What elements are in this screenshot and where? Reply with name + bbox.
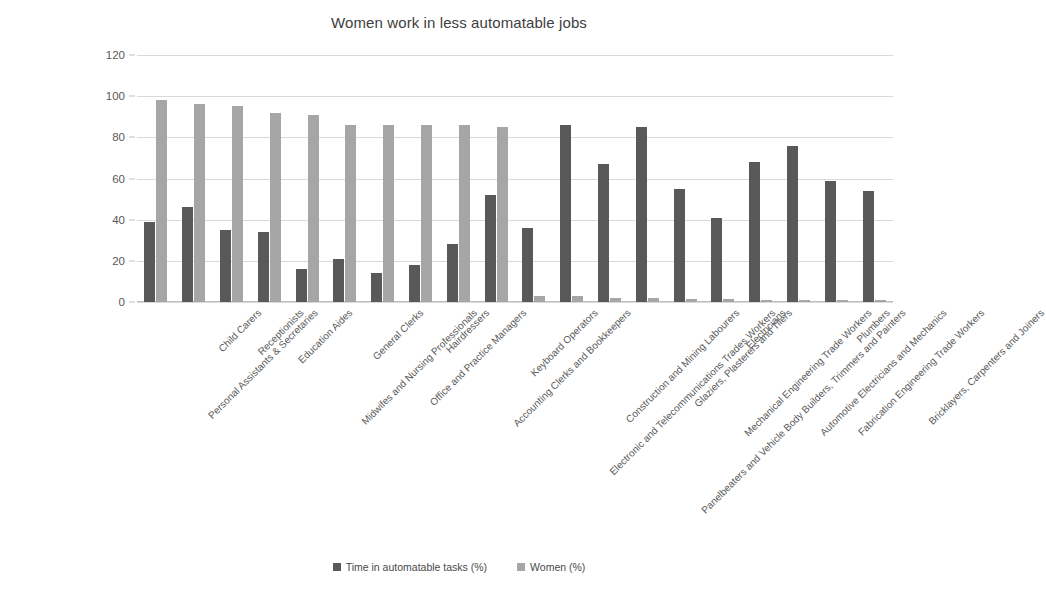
bar[interactable] (371, 273, 382, 302)
bar[interactable] (875, 300, 886, 302)
x-axis-labels: Personal Assistants & SecretariesChild C… (137, 303, 893, 553)
bar[interactable] (711, 218, 722, 302)
bar[interactable] (686, 299, 697, 302)
y-axis-tick-mark (129, 302, 135, 303)
bar[interactable] (258, 232, 269, 302)
bar[interactable] (383, 125, 394, 302)
chart-legend: Time in automatable tasks (%)Women (%) (0, 561, 918, 573)
plot-area: 020406080100120 (137, 55, 893, 302)
bar[interactable] (749, 162, 760, 302)
bar[interactable] (610, 298, 621, 302)
y-axis-tick-mark (129, 260, 135, 261)
bar-group (250, 55, 288, 302)
bar[interactable] (636, 127, 647, 302)
bar[interactable] (270, 113, 281, 302)
bar[interactable] (333, 259, 344, 302)
legend-item[interactable]: Time in automatable tasks (%) (333, 561, 487, 573)
bar[interactable] (761, 300, 772, 302)
bar-group (477, 55, 515, 302)
bar[interactable] (485, 195, 496, 302)
y-axis-tick-mark (129, 96, 135, 97)
bar[interactable] (560, 125, 571, 302)
bar-group (137, 55, 175, 302)
bar-group (326, 55, 364, 302)
bar[interactable] (447, 244, 458, 302)
bar-group (666, 55, 704, 302)
bar-group (855, 55, 893, 302)
bar-group (817, 55, 855, 302)
y-axis-tick-label: 120 (106, 49, 125, 61)
y-axis-tick-label: 60 (112, 173, 125, 185)
y-axis-tick-label: 80 (112, 131, 125, 143)
bar[interactable] (534, 296, 545, 302)
x-axis-category-label: General Clerks (370, 307, 425, 362)
bar-group (402, 55, 440, 302)
y-axis-tick-mark (129, 55, 135, 56)
y-axis-tick-mark (129, 137, 135, 138)
y-axis-tick-label: 100 (106, 90, 125, 102)
bar[interactable] (345, 125, 356, 302)
bars-layer (137, 55, 893, 302)
x-axis-category-label: Child Carers (216, 307, 263, 354)
bar[interactable] (522, 228, 533, 302)
legend-swatch-icon (333, 563, 341, 571)
bar[interactable] (409, 265, 420, 302)
bar-group (704, 55, 742, 302)
y-axis-tick-label: 40 (112, 214, 125, 226)
bar[interactable] (194, 104, 205, 302)
bar[interactable] (220, 230, 231, 302)
bar-group (742, 55, 780, 302)
bar[interactable] (723, 299, 734, 302)
x-axis-category-label: Electronic and Telecommunications Trades… (607, 307, 777, 477)
bar[interactable] (837, 300, 848, 302)
bar-group (288, 55, 326, 302)
bar-group (213, 55, 251, 302)
bar[interactable] (459, 125, 470, 302)
y-axis-tick-label: 20 (112, 255, 125, 267)
bar[interactable] (799, 300, 810, 302)
bar-group (175, 55, 213, 302)
bar-group (780, 55, 818, 302)
y-axis-tick-label: 0 (119, 296, 125, 308)
legend-label: Women (%) (530, 561, 585, 573)
bar-group (628, 55, 666, 302)
bar[interactable] (825, 181, 836, 302)
bar[interactable] (232, 106, 243, 302)
bar-group (515, 55, 553, 302)
legend-swatch-icon (517, 563, 525, 571)
bar[interactable] (572, 296, 583, 302)
y-axis-tick-mark (129, 178, 135, 179)
legend-item[interactable]: Women (%) (517, 561, 585, 573)
bar-group (364, 55, 402, 302)
bar[interactable] (787, 146, 798, 302)
bar[interactable] (648, 298, 659, 302)
chart-title: Women work in less automatable jobs (0, 14, 918, 31)
bar[interactable] (156, 100, 167, 302)
bar[interactable] (497, 127, 508, 302)
bar-group (591, 55, 629, 302)
x-axis-category-label: Bricklayers, Carpenters and Joiners (926, 307, 1046, 427)
bar[interactable] (674, 189, 685, 302)
bar[interactable] (421, 125, 432, 302)
y-axis-tick-mark (129, 219, 135, 220)
bar-group (439, 55, 477, 302)
legend-label: Time in automatable tasks (%) (346, 561, 487, 573)
bar[interactable] (863, 191, 874, 302)
bar[interactable] (296, 269, 307, 302)
bar[interactable] (182, 207, 193, 302)
bar-group (553, 55, 591, 302)
bar[interactable] (144, 222, 155, 302)
bar[interactable] (308, 115, 319, 302)
bar[interactable] (598, 164, 609, 302)
